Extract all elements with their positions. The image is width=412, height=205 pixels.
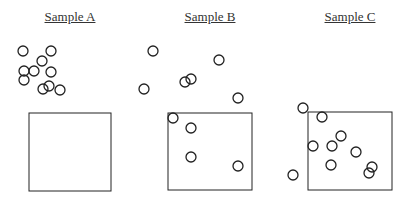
particle-circle-icon <box>55 85 65 95</box>
particle-circle-icon <box>37 56 47 66</box>
particle-circle-icon <box>327 141 337 151</box>
particle-circle-icon <box>288 170 298 180</box>
particle-circle-icon <box>168 113 178 123</box>
particle-diagram <box>0 0 412 205</box>
particle-circle-icon <box>364 168 374 178</box>
particle-circle-icon <box>180 77 190 87</box>
particle-circle-icon <box>18 46 28 56</box>
particle-circle-icon <box>326 160 336 170</box>
particle-circle-icon <box>46 46 56 56</box>
sample-c-container-box <box>308 112 392 190</box>
particle-circle-icon <box>29 66 39 76</box>
particle-circle-icon <box>38 84 48 94</box>
particle-circle-icon <box>233 93 243 103</box>
particle-circle-icon <box>44 81 54 91</box>
particle-circle-icon <box>298 103 308 113</box>
particle-circle-icon <box>139 84 149 94</box>
sample-b-container-box <box>168 113 252 190</box>
particle-circle-icon <box>308 141 318 151</box>
particle-circle-icon <box>351 147 361 157</box>
particle-circle-icon <box>336 131 346 141</box>
particle-circle-icon <box>367 162 377 172</box>
particle-circle-icon <box>186 123 196 133</box>
particle-circle-icon <box>148 46 158 56</box>
sample-a-container-box <box>29 113 111 191</box>
particle-circle-icon <box>186 74 196 84</box>
particle-circle-icon <box>233 161 243 171</box>
particle-circle-icon <box>317 112 327 122</box>
particle-circle-icon <box>186 152 196 162</box>
particle-circle-icon <box>46 67 56 77</box>
particle-circle-icon <box>214 55 224 65</box>
